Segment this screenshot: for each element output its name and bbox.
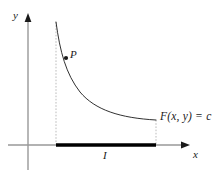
point-p-marker bbox=[64, 56, 68, 60]
figure-canvas: y x P I F(x, y) = c bbox=[0, 0, 219, 172]
point-p-label: P bbox=[70, 49, 77, 60]
interval-label: I bbox=[103, 150, 107, 161]
curve-equation-label: F(x, y) = c bbox=[160, 111, 211, 123]
y-axis-label: y bbox=[13, 10, 18, 21]
diagram-svg bbox=[0, 0, 219, 172]
x-axis-arrowhead bbox=[181, 142, 190, 149]
solution-curve bbox=[56, 22, 156, 120]
x-axis-label: x bbox=[193, 149, 198, 160]
y-axis-arrowhead bbox=[25, 13, 32, 22]
